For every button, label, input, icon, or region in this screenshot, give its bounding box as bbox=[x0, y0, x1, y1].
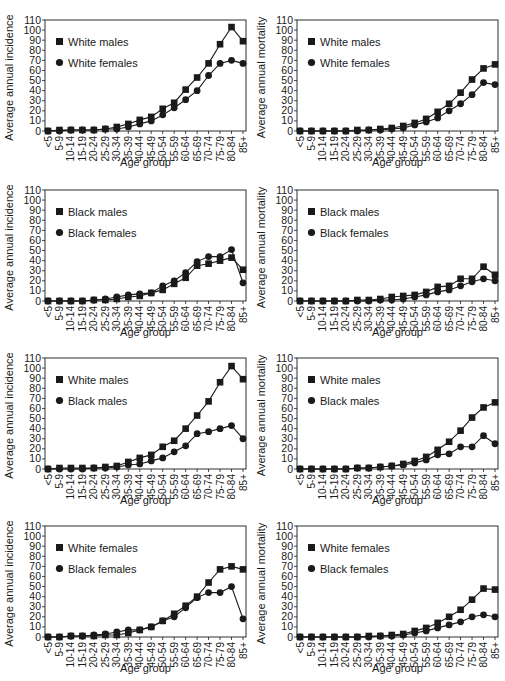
square-marker bbox=[205, 398, 212, 405]
x-tick-label: 85+ bbox=[238, 474, 249, 491]
y-tick-label: 110 bbox=[276, 520, 293, 532]
square-marker bbox=[171, 437, 178, 444]
y-tick-label: 110 bbox=[276, 14, 293, 26]
circle-marker bbox=[342, 466, 349, 473]
y-axis-label: Average annual mortality bbox=[255, 16, 267, 138]
square-marker bbox=[492, 61, 499, 68]
x-axis-label: Age group bbox=[120, 494, 171, 506]
x-tick-label: 85+ bbox=[490, 474, 501, 491]
x-tick-label: 70-74 bbox=[455, 136, 466, 162]
y-axis: 0102030405060708090100110 bbox=[23, 184, 45, 307]
circle-marker bbox=[297, 466, 304, 473]
x-tick-label: <5 bbox=[43, 306, 54, 318]
x-tick-label: 10-14 bbox=[65, 642, 76, 668]
circle-marker bbox=[102, 631, 109, 638]
square-marker bbox=[228, 24, 235, 31]
circle-marker bbox=[90, 465, 97, 472]
legend-label: White males bbox=[68, 36, 129, 48]
x-tick-label: 5-9 bbox=[306, 306, 317, 321]
circle-marker bbox=[342, 634, 349, 641]
circle-marker bbox=[45, 634, 52, 641]
circle-marker bbox=[182, 604, 189, 611]
x-tick-label: 5-9 bbox=[54, 136, 65, 151]
circle-marker bbox=[354, 465, 361, 472]
circle-marker bbox=[228, 57, 235, 64]
circle-marker bbox=[136, 291, 143, 298]
legend-label: White males bbox=[320, 374, 381, 386]
x-tick-label: 25-29 bbox=[100, 136, 111, 162]
legend-label: White females bbox=[68, 542, 138, 554]
circle-marker bbox=[217, 425, 224, 432]
circle-marker bbox=[136, 121, 143, 128]
square-marker bbox=[182, 86, 189, 93]
circle-marker bbox=[79, 127, 86, 134]
x-tick-label: 75-79 bbox=[215, 306, 226, 332]
y-axis-label: Average annual incidence bbox=[3, 520, 15, 646]
square-marker bbox=[228, 563, 235, 570]
x-tick-label: 20-24 bbox=[340, 306, 351, 332]
circle-marker bbox=[320, 128, 327, 135]
circle-marker bbox=[492, 440, 499, 447]
x-tick-label: 60-64 bbox=[180, 642, 191, 668]
y-axis-label: Average annual incidence bbox=[3, 14, 15, 140]
square-marker bbox=[434, 109, 441, 116]
x-axis-label: Age group bbox=[120, 156, 171, 168]
x-tick-label: 60-64 bbox=[432, 474, 443, 500]
x-tick-label: 10-14 bbox=[317, 642, 328, 668]
x-tick-label: 70-74 bbox=[203, 306, 214, 332]
circle-marker bbox=[308, 634, 315, 641]
square-marker-icon bbox=[56, 208, 63, 215]
circle-marker bbox=[331, 298, 338, 305]
circle-marker bbox=[411, 630, 418, 637]
x-tick-label: 10-14 bbox=[65, 306, 76, 332]
x-tick-label: 80-84 bbox=[226, 474, 237, 500]
square-marker bbox=[480, 404, 487, 411]
circle-marker bbox=[45, 128, 52, 135]
x-tick-label: 80-84 bbox=[226, 642, 237, 668]
circle-marker bbox=[68, 127, 75, 134]
x-tick-label: 70-74 bbox=[455, 474, 466, 500]
circle-marker-icon bbox=[308, 59, 315, 66]
circle-marker bbox=[90, 127, 97, 134]
x-tick-label: 25-29 bbox=[352, 474, 363, 500]
circle-marker bbox=[388, 126, 395, 133]
legend: White femalesBlack females bbox=[56, 542, 138, 575]
legend-label: White males bbox=[320, 36, 381, 48]
x-tick-label: 80-84 bbox=[478, 474, 489, 500]
circle-marker bbox=[113, 629, 120, 636]
circle-marker bbox=[480, 79, 487, 86]
x-tick-label: <5 bbox=[295, 474, 306, 486]
circle-marker bbox=[388, 633, 395, 640]
circle-marker bbox=[171, 613, 178, 620]
x-tick-label: 75-79 bbox=[467, 642, 478, 668]
circle-marker bbox=[480, 611, 487, 618]
circle-marker-icon bbox=[308, 229, 315, 236]
legend-label: White females bbox=[320, 542, 390, 554]
square-marker bbox=[148, 452, 155, 459]
x-axis-label: Age group bbox=[372, 156, 423, 168]
circle-marker bbox=[331, 466, 338, 473]
circle-marker bbox=[228, 583, 235, 590]
x-tick-label: 70-74 bbox=[455, 306, 466, 332]
chart-panel-row2-left: 0102030405060708090100110Average annual … bbox=[0, 170, 253, 349]
y-axis: 0102030405060708090100110 bbox=[275, 184, 297, 307]
square-marker bbox=[240, 376, 247, 383]
x-tick-label: 25-29 bbox=[100, 642, 111, 668]
square-marker bbox=[446, 100, 453, 107]
square-marker bbox=[182, 425, 189, 432]
x-tick-label: 25-29 bbox=[100, 474, 111, 500]
circle-marker bbox=[205, 428, 212, 435]
x-tick-label: 85+ bbox=[238, 136, 249, 153]
x-tick-label: <5 bbox=[43, 642, 54, 654]
square-marker bbox=[457, 89, 464, 96]
x-tick-label: 60-64 bbox=[180, 306, 191, 332]
y-axis-label: Average annual mortality bbox=[255, 354, 267, 476]
circle-marker bbox=[446, 287, 453, 294]
circle-marker bbox=[194, 87, 201, 94]
circle-marker bbox=[136, 627, 143, 634]
circle-marker bbox=[308, 466, 315, 473]
circle-marker bbox=[423, 292, 430, 299]
series-black-females bbox=[297, 275, 499, 304]
x-tick-label: 10-14 bbox=[317, 306, 328, 332]
square-marker bbox=[228, 363, 235, 370]
